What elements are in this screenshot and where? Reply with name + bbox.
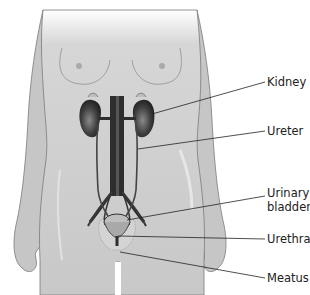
label-urethra-text: Urethra xyxy=(267,232,310,246)
label-kidney-text: Kidney xyxy=(267,75,306,89)
left-nipple xyxy=(76,63,82,69)
label-bladder-text-line1: Urinary xyxy=(267,186,310,200)
urethra xyxy=(116,236,119,246)
label-bladder-text-line2: bladder xyxy=(267,200,310,214)
right-nipple xyxy=(159,63,165,69)
label-meatus-text: Meatus xyxy=(267,271,309,285)
label-ureter: Ureter xyxy=(267,124,303,138)
leg-gap xyxy=(115,262,121,295)
urinary-system-diagram xyxy=(0,0,310,295)
label-kidney: Kidney xyxy=(267,75,306,89)
label-ureter-text: Ureter xyxy=(267,124,303,138)
label-meatus: Meatus xyxy=(267,271,309,285)
label-urethra: Urethra xyxy=(267,232,310,246)
label-urinary-bladder: Urinary bladder xyxy=(267,186,310,214)
